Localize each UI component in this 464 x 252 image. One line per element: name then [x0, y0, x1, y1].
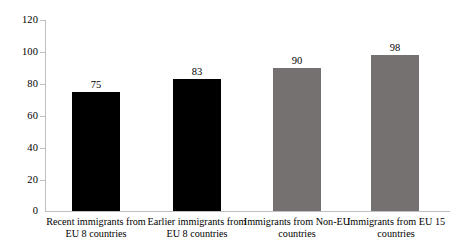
- x-category-label-3-line-2: countries: [337, 228, 455, 240]
- bar-earlier-immigrants-eu8: [173, 79, 221, 211]
- bar-immigrants-non-eu: [273, 68, 321, 211]
- bar-value-label-2: 90: [273, 55, 321, 66]
- bar-value-label-0: 75: [72, 79, 120, 90]
- bar-value-label-1: 83: [173, 66, 221, 77]
- x-category-label-3: Immigrants from EU 15 countries: [337, 216, 455, 241]
- x-category-label-3-line-1: Immigrants from EU 15: [337, 216, 455, 228]
- bar-immigrants-eu15: [371, 55, 419, 211]
- bars-layer: 75 83 90 98: [0, 0, 464, 252]
- bar-value-label-3: 98: [371, 42, 419, 53]
- bar-chart: 120 100 80 60 40 20 0 75 83 90 98 Recent…: [0, 0, 464, 252]
- bar-recent-immigrants-eu8: [72, 92, 120, 211]
